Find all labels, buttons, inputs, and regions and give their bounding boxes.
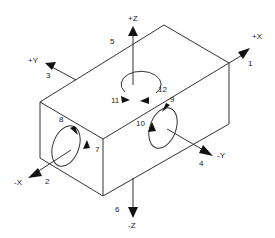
- label-9: 9: [170, 96, 174, 104]
- label-11: 11: [111, 97, 119, 105]
- rotation-arrow-7: [83, 140, 90, 149]
- label-2: 2: [45, 178, 49, 186]
- label-minus-z: -Z: [128, 222, 136, 230]
- label-5: 5: [110, 38, 114, 46]
- label-3: 3: [46, 72, 50, 80]
- label-7: 7: [95, 146, 99, 154]
- plus-x-arrowhead: [238, 48, 250, 59]
- label-1: 1: [248, 60, 252, 68]
- label-4: 4: [199, 160, 203, 168]
- label-minus-y: -Y: [217, 152, 225, 160]
- box-top-face: [40, 25, 229, 139]
- label-12: 12: [158, 86, 167, 94]
- minus-z-arrowhead: [128, 207, 138, 218]
- box-edge-bottom-right: [103, 124, 229, 196]
- rotation-ellipse-left: [47, 122, 86, 170]
- plus-z-arrowhead: [128, 26, 138, 36]
- label-plus-z: +Z: [128, 15, 138, 23]
- label-plus-y: +Y: [28, 57, 38, 65]
- label-10: 10: [136, 120, 145, 128]
- minus-y-arrowhead: [199, 145, 213, 156]
- label-6: 6: [115, 206, 119, 214]
- label-plus-x: +X: [252, 33, 262, 41]
- rotation-arrow-11: [121, 96, 130, 103]
- rotation-arrow-8: [70, 126, 78, 135]
- minus-x-arrowhead: [28, 168, 42, 178]
- label-minus-x: -X: [14, 179, 22, 187]
- plus-y-axis-line: [52, 67, 76, 80]
- rotation-arrow-12: [140, 97, 149, 104]
- minus-y-axis-line: [167, 129, 205, 151]
- label-8: 8: [59, 116, 63, 124]
- rotation-ellipse-top: [121, 71, 161, 93]
